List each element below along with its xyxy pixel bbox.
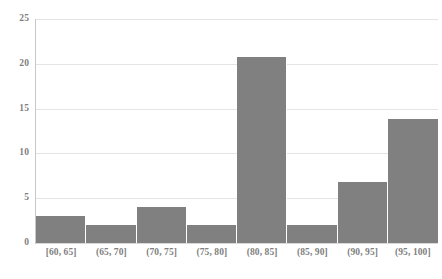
x-axis-tick-label: (85, 90] — [287, 248, 337, 268]
y-axis-tick-label: 0 — [24, 238, 29, 248]
bar[interactable] — [237, 57, 287, 243]
bar[interactable] — [187, 225, 237, 243]
gridline-baseline — [36, 243, 438, 244]
x-axis: [60, 65] (65, 70] (70, 75] (75, 80] (80,… — [36, 248, 438, 268]
y-axis-tick-label: 25 — [19, 14, 29, 24]
x-axis-tick-label: (70, 75] — [137, 248, 187, 268]
bar-slot — [36, 19, 86, 243]
bar-slot — [388, 19, 438, 243]
bar[interactable] — [388, 119, 438, 243]
y-axis: 25 20 15 10 5 0 — [0, 0, 34, 279]
bar[interactable] — [287, 225, 337, 243]
y-axis-tick-label: 15 — [19, 104, 29, 114]
bar-slot — [86, 19, 136, 243]
bar[interactable] — [338, 182, 388, 243]
x-axis-tick-label: (95, 100] — [388, 248, 438, 268]
x-axis-tick-label: (75, 80] — [187, 248, 237, 268]
bar-slot — [237, 19, 287, 243]
bar-slot — [338, 19, 388, 243]
y-axis-tick-label: 5 — [24, 193, 29, 203]
plot-area — [36, 19, 438, 243]
y-axis-tick-label: 20 — [19, 59, 29, 69]
x-axis-tick-label: (65, 70] — [86, 248, 136, 268]
x-axis-tick-label: (90, 95] — [338, 248, 388, 268]
bar[interactable] — [86, 225, 136, 243]
bar-slot — [187, 19, 237, 243]
bar-slot — [287, 19, 337, 243]
y-axis-tick-label: 10 — [19, 149, 29, 159]
bar[interactable] — [36, 216, 86, 243]
x-axis-tick-label: [60, 65] — [36, 248, 86, 268]
bars-layer — [36, 19, 438, 243]
bar[interactable] — [137, 207, 187, 243]
bar-chart: 25 20 15 10 5 0 [60, 65] ( — [0, 0, 442, 279]
x-axis-tick-label: (80, 85] — [237, 248, 287, 268]
bar-slot — [137, 19, 187, 243]
